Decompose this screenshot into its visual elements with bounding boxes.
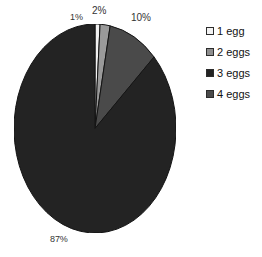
legend-item-label: 3 eggs	[217, 67, 250, 79]
legend-item-3-eggs[interactable]: 3 eggs	[206, 62, 262, 83]
legend-item-2-eggs[interactable]: 2 eggs	[206, 41, 262, 62]
pie-plot-area	[14, 24, 176, 233]
pie-slice-group	[14, 24, 176, 233]
legend-item-label: 4 eggs	[217, 88, 250, 100]
legend-swatch-icon	[206, 48, 214, 56]
pie-chart-figure: 1% 2% 10% 87% 1 egg2 eggs3 eggs4 eggs	[0, 0, 262, 257]
clipped-chart-title	[104, 0, 130, 3]
slice-label-2-eggs: 2%	[92, 6, 106, 16]
legend-swatch-icon	[206, 69, 214, 77]
legend-item-1-egg[interactable]: 1 egg	[206, 20, 262, 41]
legend-item-label: 1 egg	[217, 25, 245, 37]
slice-label-1-egg: 1%	[70, 12, 83, 22]
pie-svg	[14, 24, 176, 233]
legend-item-label: 2 eggs	[217, 46, 250, 58]
legend-item-4-eggs[interactable]: 4 eggs	[206, 83, 262, 104]
legend-swatch-icon	[206, 27, 214, 35]
chart-legend: 1 egg2 eggs3 eggs4 eggs	[206, 20, 262, 104]
slice-label-4-eggs: 10%	[131, 13, 151, 23]
legend-swatch-icon	[206, 90, 214, 98]
slice-label-3-eggs: 87%	[50, 234, 68, 244]
